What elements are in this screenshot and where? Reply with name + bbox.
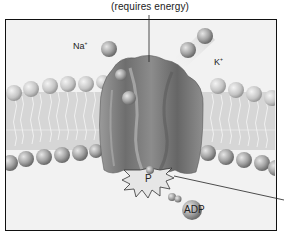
sodium-ion — [122, 91, 136, 105]
sodium-potassium-pump-diagram — [0, 0, 284, 242]
pump-protein — [100, 55, 204, 173]
sodium-label: Na+ — [73, 41, 87, 51]
potassium-ion — [180, 42, 196, 58]
sodium-ion — [115, 69, 127, 81]
phosphate-callout-line — [174, 176, 284, 200]
phosphate-label: P — [145, 173, 152, 184]
potassium-label: K+ — [214, 57, 223, 67]
potassium-ion — [197, 28, 213, 44]
sodium-ion — [101, 41, 117, 57]
adp-label: ADP — [184, 204, 205, 215]
